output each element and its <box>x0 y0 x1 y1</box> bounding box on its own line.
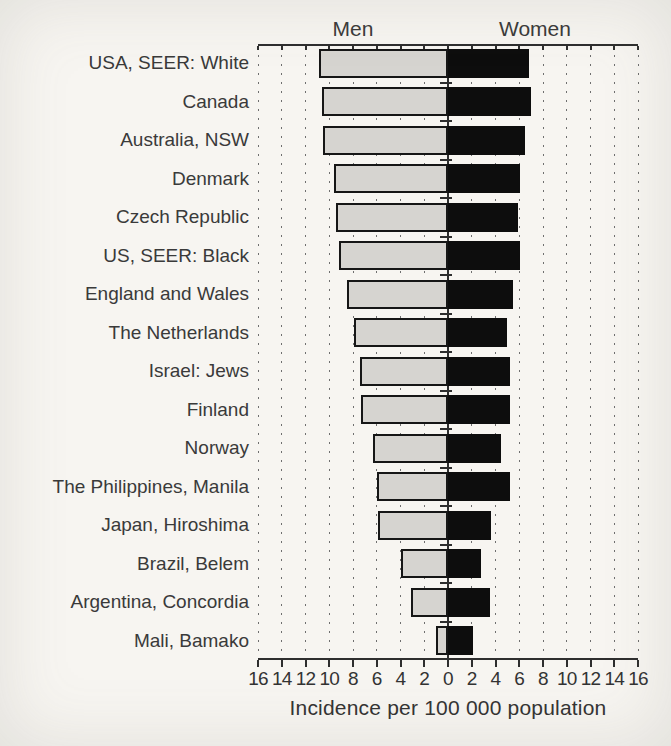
men-bar <box>401 549 449 578</box>
zero-line-row-tick <box>440 505 452 507</box>
x-axis-tick <box>566 660 568 667</box>
zero-line-row-tick <box>440 159 452 161</box>
zero-line-row-tick <box>440 120 452 122</box>
men-column-header: Men <box>283 17 423 41</box>
gridline <box>590 46 591 658</box>
zero-line-row-tick <box>440 621 452 623</box>
top-axis-tick <box>566 46 568 50</box>
category-label: USA, SEER: White <box>0 44 249 83</box>
category-label: England and Wales <box>0 275 249 314</box>
x-axis-tick <box>471 660 473 667</box>
gridline <box>258 46 259 658</box>
gridline <box>281 46 282 658</box>
men-bar <box>377 472 448 501</box>
men-bar <box>323 126 448 155</box>
x-axis-title: Incidence per 100 000 population <box>248 696 648 720</box>
x-axis-tick <box>281 660 283 667</box>
top-axis-tick <box>257 46 259 50</box>
women-bar <box>448 588 490 617</box>
top-axis-tick <box>613 46 615 50</box>
x-axis-tick <box>637 660 639 667</box>
x-axis-tick <box>352 660 354 667</box>
category-label-column: USA, SEER: WhiteCanadaAustralia, NSWDenm… <box>0 44 249 660</box>
x-axis-tick <box>257 660 259 667</box>
men-bar <box>354 318 448 347</box>
women-bar <box>448 357 510 386</box>
x-axis-tick <box>613 660 615 667</box>
top-axis-tick <box>590 46 592 50</box>
men-bar <box>339 241 448 270</box>
men-bar <box>373 434 448 463</box>
x-axis-tick <box>495 660 497 667</box>
x-axis-tick <box>400 660 402 667</box>
gridline <box>638 46 639 658</box>
incidence-chart-figure: Men Women USA, SEER: WhiteCanadaAustrali… <box>0 0 671 746</box>
category-label: Israel: Jews <box>0 352 249 391</box>
x-axis-tick <box>542 660 544 667</box>
x-axis-tick <box>590 660 592 667</box>
women-bar <box>448 87 531 116</box>
women-bar <box>448 126 525 155</box>
women-bar <box>448 164 520 193</box>
men-bar <box>411 588 448 617</box>
women-bar <box>448 626 473 655</box>
women-bar <box>448 49 529 78</box>
gridline <box>543 46 544 658</box>
men-bar <box>319 49 448 78</box>
category-label: US, SEER: Black <box>0 237 249 276</box>
zero-line-row-tick <box>440 544 452 546</box>
plot-area <box>258 44 638 660</box>
women-bar <box>448 395 510 424</box>
top-axis-tick <box>305 46 307 50</box>
women-bar <box>448 203 518 232</box>
women-bar <box>448 549 481 578</box>
zero-line-row-tick <box>440 82 452 84</box>
category-label: The Netherlands <box>0 314 249 353</box>
top-axis-tick <box>281 46 283 50</box>
zero-line-row-tick <box>440 274 452 276</box>
women-bar <box>448 241 520 270</box>
men-bar <box>378 511 448 540</box>
zero-line-row-tick <box>440 467 452 469</box>
category-label: Japan, Hiroshima <box>0 506 249 545</box>
women-column-header: Women <box>465 17 605 41</box>
top-axis-tick <box>542 46 544 50</box>
category-label: Norway <box>0 429 249 468</box>
men-bar <box>347 280 448 309</box>
men-bar <box>360 357 448 386</box>
category-label: Czech Republic <box>0 198 249 237</box>
men-bar <box>361 395 448 424</box>
women-bar <box>448 511 491 540</box>
x-axis-tick <box>518 660 520 667</box>
x-axis-tick <box>376 660 378 667</box>
women-bar <box>448 318 507 347</box>
top-axis-tick <box>637 46 639 50</box>
x-axis-tick <box>328 660 330 667</box>
zero-line-row-tick <box>440 428 452 430</box>
zero-line-row-tick <box>440 197 452 199</box>
men-bar <box>322 87 448 116</box>
category-label: Mali, Bamako <box>0 622 249 661</box>
category-label: Argentina, Concordia <box>0 583 249 622</box>
x-axis-tick-labels: 1614121086420246810121416 <box>0 668 671 690</box>
zero-line-row-tick <box>440 313 452 315</box>
men-bar <box>336 203 448 232</box>
category-label: Brazil, Belem <box>0 545 249 584</box>
x-axis-tick-label: 16 <box>618 668 658 690</box>
gridline <box>614 46 615 658</box>
category-label: The Philippines, Manila <box>0 468 249 507</box>
zero-line-row-tick <box>440 390 452 392</box>
gridline <box>305 46 306 658</box>
men-bar <box>436 626 448 655</box>
zero-line-row-tick <box>440 351 452 353</box>
x-axis-tick <box>447 660 449 667</box>
women-bar <box>448 472 510 501</box>
x-axis-tick <box>305 660 307 667</box>
zero-line-row-tick <box>440 582 452 584</box>
category-label: Canada <box>0 83 249 122</box>
x-axis-tick <box>423 660 425 667</box>
gridline <box>566 46 567 658</box>
women-bar <box>448 280 513 309</box>
women-bar <box>448 434 501 463</box>
zero-line-row-tick <box>440 236 452 238</box>
